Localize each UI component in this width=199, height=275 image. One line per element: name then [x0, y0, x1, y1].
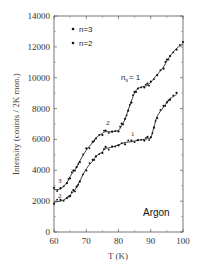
- legend-marker-n2: [72, 42, 75, 45]
- data-point: [103, 148, 105, 150]
- data-point: [53, 187, 55, 189]
- data-point: [89, 162, 91, 164]
- data-point: [108, 132, 110, 134]
- data-point: [127, 139, 129, 141]
- data-point: [111, 131, 113, 133]
- x-tick-label: 70: [82, 236, 92, 246]
- annotations: ns= 1 2 1 3 2 Argon: [58, 73, 170, 218]
- data-point: [160, 69, 162, 71]
- data-point: [156, 74, 158, 76]
- series-line-n3: [54, 44, 183, 190]
- data-point: [126, 114, 128, 116]
- data-point: [153, 78, 155, 80]
- data-point: [121, 142, 123, 144]
- data-point: [163, 68, 165, 70]
- y-axis-title: Intensity (counts / 2K mon.): [11, 73, 21, 175]
- y-tick-label: 6000: [32, 134, 51, 144]
- data-point: [169, 99, 171, 101]
- annotation-ns: ns= 1: [121, 73, 141, 83]
- data-point: [164, 105, 166, 107]
- y-tick-label: 2000: [32, 196, 51, 206]
- data-point: [93, 140, 95, 142]
- data-point: [150, 136, 152, 138]
- data-point: [71, 191, 73, 193]
- series-line-n2: [54, 95, 177, 202]
- data-point: [63, 185, 65, 187]
- data-point: [119, 126, 121, 128]
- data-point: [105, 129, 107, 131]
- data-point: [176, 49, 178, 51]
- data-point: [72, 189, 74, 191]
- data-point: [135, 91, 137, 93]
- data-point: [146, 83, 148, 85]
- data-point: [124, 118, 126, 120]
- data-point: [98, 134, 100, 136]
- data-point: [114, 146, 116, 148]
- data-point: [69, 195, 71, 197]
- data-point: [166, 101, 168, 103]
- data-point: [108, 149, 110, 151]
- data-point: [95, 155, 97, 157]
- data-point: [77, 184, 79, 186]
- plot-frame: [54, 16, 183, 232]
- data-point: [89, 147, 91, 149]
- data-point: [140, 87, 142, 89]
- data-point: [74, 170, 76, 172]
- data-point: [101, 134, 103, 136]
- data-point: [143, 86, 145, 88]
- annotation-lower-1: 1: [131, 130, 135, 138]
- data-point: [59, 187, 61, 189]
- data-point: [101, 152, 103, 154]
- data-point: [163, 105, 165, 107]
- data-point: [93, 159, 95, 161]
- data-point: [150, 81, 152, 83]
- annotation-upper-2: 2: [106, 119, 110, 127]
- data-point: [77, 163, 79, 165]
- data-point: [148, 139, 150, 141]
- data-point: [105, 146, 107, 148]
- data-point: [140, 139, 142, 141]
- legend-marker-n3: [72, 28, 75, 31]
- data-point: [155, 120, 157, 122]
- data-point: [148, 85, 150, 87]
- x-tick-label: 100: [176, 236, 190, 246]
- legend-label-n3: n=3: [79, 25, 93, 34]
- data-point: [63, 200, 65, 202]
- data-point: [82, 154, 84, 156]
- data-point: [169, 55, 171, 57]
- data-point: [160, 109, 162, 111]
- y-tick-label: 8000: [32, 104, 51, 114]
- data-point: [176, 92, 178, 94]
- y-tick-label: 4000: [32, 165, 51, 175]
- annotation-upper-3: 3: [58, 177, 62, 185]
- x-tick-label: 80: [114, 236, 124, 246]
- y-tick-label: 12000: [28, 42, 51, 52]
- x-tick-label: 60: [50, 236, 60, 246]
- y-tick-label: 14000: [28, 11, 51, 21]
- data-point: [114, 130, 116, 132]
- x-axis-title: T (K): [108, 251, 128, 261]
- data-point: [74, 191, 76, 193]
- data-point: [117, 144, 119, 146]
- data-point: [156, 117, 158, 119]
- y-tick-label: 10000: [28, 73, 51, 83]
- data-point: [66, 197, 68, 199]
- data-point: [182, 41, 184, 43]
- data-point: [95, 137, 97, 139]
- data-point: [66, 182, 68, 184]
- legend: n=3 n=2: [72, 25, 93, 48]
- data-point: [98, 153, 100, 155]
- annotation-lower-2: 2: [58, 192, 62, 200]
- data-point: [129, 104, 131, 106]
- data-point: [130, 102, 132, 104]
- data-point: [111, 145, 113, 147]
- chart: 02000400060008000100001200014000 6070809…: [0, 0, 199, 275]
- data-point: [143, 140, 145, 142]
- data-point: [76, 166, 78, 168]
- data-point: [53, 203, 55, 205]
- data-point: [117, 130, 119, 132]
- data-point: [72, 170, 74, 172]
- data-point: [69, 177, 71, 179]
- x-tick-label: 90: [146, 236, 156, 246]
- data-point: [152, 132, 154, 134]
